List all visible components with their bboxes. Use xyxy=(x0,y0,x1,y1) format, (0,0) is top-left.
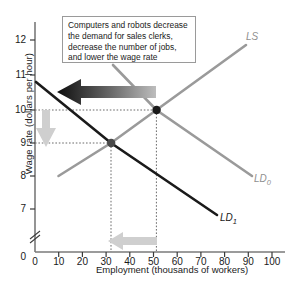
equilibrium-dot-initial xyxy=(152,106,160,114)
y-tick-label-0: 0 xyxy=(4,251,26,262)
callout-line-1: Computers and robots decrease xyxy=(68,20,190,31)
y-axis-title: Wage rate (dollars per hour) xyxy=(23,34,34,194)
callout-line-3: decrease the number of jobs, xyxy=(68,42,190,53)
curve-label-ld1-text: LD xyxy=(220,212,233,223)
demand-shift-arrow-icon xyxy=(57,79,156,105)
curve-label-ld0: LD0 xyxy=(254,173,271,187)
callout-line-2: the demand for sales clerks, xyxy=(68,31,190,42)
x-tick-label-20: 20 xyxy=(71,256,93,267)
curve-label-ls-text: LS xyxy=(246,31,258,42)
wage-employment-chart: 12 11 10 9 8 7 0 0 10 20 30 40 50 60 70 … xyxy=(0,0,292,282)
curve-label-ls: LS xyxy=(246,31,258,42)
y-tick-label-7: 7 xyxy=(4,203,26,214)
curve-label-ld1: LD1 xyxy=(220,212,237,226)
equilibrium-dot-new xyxy=(107,139,115,147)
curve-label-ld0-text: LD xyxy=(254,173,267,184)
x-tick-label-0: 0 xyxy=(24,256,46,267)
curve-label-ld0-sub: 0 xyxy=(267,178,271,187)
x-tick-label-10: 10 xyxy=(48,256,70,267)
curve-label-ld1-sub: 1 xyxy=(233,217,237,226)
wage-fall-arrow-icon xyxy=(36,110,56,147)
x-axis-title: Employment (thousands of workers) xyxy=(96,264,286,275)
annotation-callout-box: Computers and robots decrease the demand… xyxy=(62,16,196,63)
employment-fall-arrow-icon xyxy=(108,232,157,250)
curve-ld1 xyxy=(36,82,217,215)
callout-line-4: and lower the wage rate xyxy=(68,52,190,63)
